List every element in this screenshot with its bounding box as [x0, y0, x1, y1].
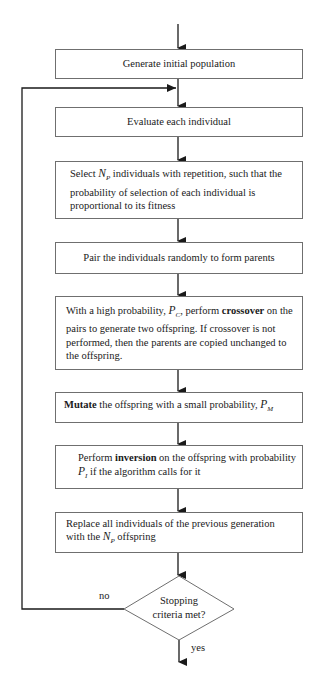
step-replace-text: Replace all individuals of the previous … — [56, 517, 302, 549]
step-evaluate-box: Evaluate each individual — [55, 107, 303, 137]
step-pair-box: Pair the individuals randomly to form pa… — [55, 242, 303, 274]
step-select-box: Select NP individuals with repetition, s… — [55, 161, 303, 219]
yes-label: yes — [191, 642, 205, 653]
step-select-text: Select NP individuals with repetition, s… — [56, 167, 302, 213]
keyword-crossover: crossover — [222, 305, 264, 316]
step-pair-text: Pair the individuals randomly to form pa… — [56, 251, 302, 265]
var-pm: PM — [260, 398, 273, 410]
step-replace-box: Replace all individuals of the previous … — [55, 512, 303, 553]
keyword-inversion: inversion — [115, 452, 156, 463]
decision-text: Stopping criteria met? — [134, 594, 224, 622]
step-mutate-text: Mutate the offspring with a small probab… — [56, 398, 302, 417]
var-np: NP — [98, 167, 110, 179]
step-inversion-text: Perform inversion on the offspring with … — [56, 451, 302, 483]
step-inversion-box: Perform inversion on the offspring with … — [55, 445, 303, 489]
step-crossover-box: With a high probability, PC, perform cro… — [55, 296, 303, 370]
var-pi: PI — [78, 465, 87, 477]
keyword-mutate: Mutate — [64, 399, 97, 410]
step-crossover-text: With a high probability, PC, perform cro… — [56, 304, 302, 363]
var-np-2: NP — [103, 530, 115, 542]
step-generate-text: Generate initial population — [56, 57, 302, 71]
step-evaluate-text: Evaluate each individual — [56, 115, 302, 129]
no-label: no — [99, 590, 110, 601]
step-mutate-box: Mutate the offspring with a small probab… — [55, 392, 303, 423]
step-generate-box: Generate initial population — [55, 49, 303, 79]
var-pc: PC — [168, 304, 180, 316]
